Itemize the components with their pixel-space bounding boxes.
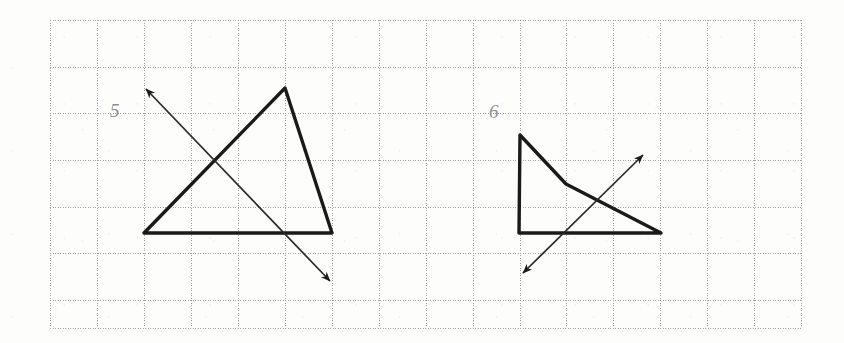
figure-number-label-6: 6 [489,102,499,121]
worksheet-page: 5 6 [0,0,844,343]
dart-quadrilateral-shape [519,135,661,233]
worksheet-canvas [0,0,844,343]
figure-5-drawing [144,88,332,281]
figure-number-label-5: 5 [110,101,120,120]
figure-6-drawing [519,135,661,273]
graph-paper-grid [50,20,802,329]
